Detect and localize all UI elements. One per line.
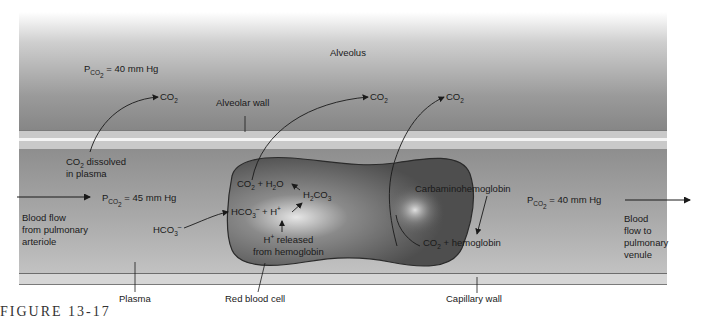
reaction-h2co3: H2CO3 — [303, 189, 331, 201]
arrow-carbamino — [477, 196, 487, 234]
carbaminohemoglobin-label: Carbaminohemoglobin — [415, 183, 511, 195]
co2-output-2: CO2 — [370, 91, 388, 103]
hco3-plasma-label: HCO3– — [153, 224, 181, 236]
reaction-co2-h2o: CO2 + H2O — [237, 178, 284, 190]
pco2-alveolus: PCO2 = 40 mm Hg — [84, 63, 158, 76]
reaction-dissociation: HCO3– + H+ — [231, 206, 281, 218]
figure-caption: FIGURE 13-17 — [0, 304, 111, 320]
h-released-label: H+ releasedfrom hemoglobin — [253, 234, 324, 258]
plasma-label: Plasma — [119, 293, 151, 305]
alveolar-wall-label: Alveolar wall — [216, 97, 269, 109]
co2-hemoglobin-label: CO2 + hemoglobin — [423, 237, 501, 249]
red-blood-cell-label: Red blood cell — [225, 293, 285, 305]
pco2-venule: PCO2 = 40 mm Hg — [527, 194, 601, 207]
arrow-hco3-in — [184, 212, 228, 228]
alveolus-label: Alveolus — [330, 47, 366, 59]
co2-output-1: CO2 — [160, 91, 178, 103]
pointer-rbc — [258, 263, 265, 292]
capillary-wall-label: Capillary wall — [446, 293, 502, 305]
arrow-co2-dissolved — [90, 97, 158, 152]
pco2-arteriole: PCO2 = 45 mm Hg — [102, 192, 176, 205]
co2-output-3: CO2 — [446, 91, 464, 103]
gas-exchange-diagram: Alveolus PCO2 = 40 mm Hg CO2 Alveolar wa… — [0, 0, 704, 320]
co2-dissolved-label: CO2 dissolvedin plasma — [66, 156, 126, 180]
blood-flow-in-label: Blood flowfrom pulmonaryarteriole — [22, 212, 88, 248]
blood-flow-out-label: Bloodflow topulmonaryvenule — [624, 213, 668, 261]
